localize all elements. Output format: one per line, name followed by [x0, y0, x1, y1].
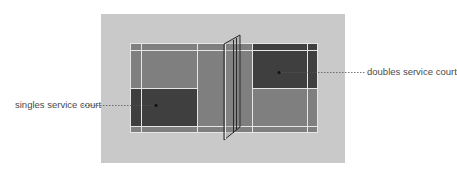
- singles-service-court: [130, 88, 197, 126]
- net: [224, 35, 240, 140]
- badminton-court-diagram: singles service court doubles service co…: [0, 0, 457, 174]
- singles-service-court-label: singles service court: [15, 100, 101, 110]
- singles-anchor-dot: [155, 104, 158, 107]
- court-graphic: [0, 0, 457, 174]
- doubles-service-court-label: doubles service court: [367, 67, 457, 77]
- doubles-anchor-dot: [278, 71, 281, 74]
